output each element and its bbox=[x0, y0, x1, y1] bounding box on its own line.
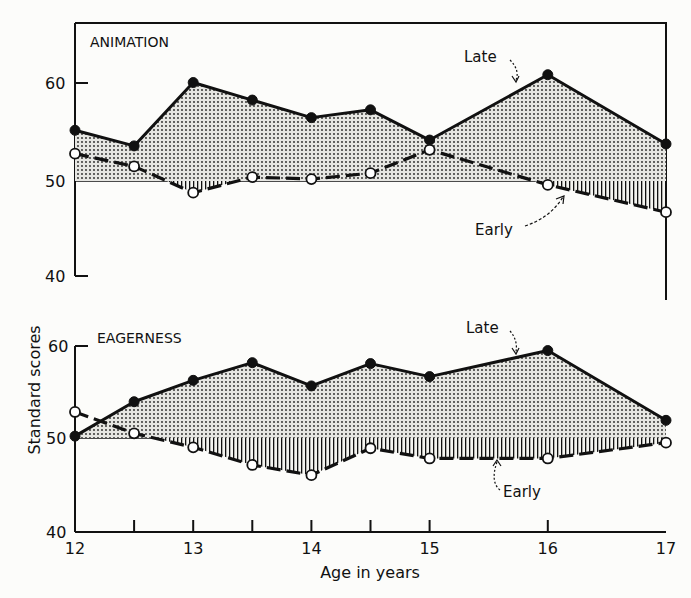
late-point bbox=[366, 105, 376, 115]
panel-title-eagerness: EAGERNESS bbox=[97, 330, 182, 346]
early-point bbox=[543, 180, 553, 190]
early-point bbox=[247, 172, 257, 182]
early-point bbox=[129, 161, 139, 171]
arrow-early-bottom bbox=[494, 462, 500, 490]
annotation-early-top: Early bbox=[475, 221, 513, 239]
bottom-panel: EAGERNESS 60 50 40 Late Early bbox=[46, 319, 671, 542]
early-point bbox=[425, 453, 435, 463]
arrow-late-top bbox=[510, 60, 517, 80]
ytick-label-top-40: 40 bbox=[45, 267, 65, 286]
early-point bbox=[70, 149, 80, 159]
early-point bbox=[306, 470, 316, 480]
late-point bbox=[425, 372, 435, 382]
ytick-label-top-60: 60 bbox=[45, 74, 65, 93]
late-point bbox=[366, 359, 376, 369]
early-point bbox=[247, 460, 257, 470]
xtick-label: 13 bbox=[183, 539, 203, 558]
late-point bbox=[70, 125, 80, 135]
late-point bbox=[306, 381, 316, 391]
annotation-late-bottom: Late bbox=[466, 319, 499, 337]
late-point bbox=[247, 358, 257, 368]
early-point bbox=[188, 188, 198, 198]
late-point bbox=[188, 78, 198, 88]
late-point bbox=[425, 135, 435, 145]
late-point bbox=[306, 113, 316, 123]
early-point bbox=[425, 145, 435, 155]
early-point bbox=[366, 443, 376, 453]
early-point bbox=[306, 174, 316, 184]
early-point bbox=[129, 428, 139, 438]
xtick-label: 15 bbox=[419, 539, 439, 558]
arrowhead-late-top bbox=[512, 76, 519, 82]
ytick-label-bottom-40: 40 bbox=[46, 523, 66, 542]
annotation-early-bottom: Early bbox=[503, 483, 541, 501]
xtick-label: 14 bbox=[301, 539, 321, 558]
arrowhead-early-top bbox=[556, 196, 564, 204]
top-panel: ANIMATION 60 50 40 Late Early bbox=[45, 23, 671, 300]
late-point bbox=[661, 139, 671, 149]
late-point bbox=[247, 95, 257, 105]
chart-figure: ANIMATION 60 50 40 Late Early EAGERNESS … bbox=[0, 0, 691, 598]
late-point bbox=[661, 415, 671, 425]
panel-title-animation: ANIMATION bbox=[90, 34, 169, 50]
early-point bbox=[188, 442, 198, 452]
xtick-label: 16 bbox=[538, 539, 558, 558]
ytick-label-bottom-50: 50 bbox=[46, 429, 66, 448]
annotation-late-top: Late bbox=[464, 48, 497, 66]
late-point bbox=[188, 375, 198, 385]
late-point bbox=[129, 141, 139, 151]
early-point bbox=[543, 453, 553, 463]
late-point bbox=[129, 397, 139, 407]
late-point bbox=[543, 70, 553, 80]
late-point bbox=[543, 346, 553, 356]
y-axis-label: Standard scores bbox=[25, 325, 44, 454]
early-point bbox=[661, 438, 671, 448]
xtick-label: 12 bbox=[65, 539, 85, 558]
ytick-label-top-50: 50 bbox=[45, 172, 65, 191]
arrowhead-late-bottom bbox=[512, 348, 519, 354]
late-point bbox=[70, 431, 80, 441]
xtick-label: 17 bbox=[656, 539, 676, 558]
early-point bbox=[70, 407, 80, 417]
arrow-early-top bbox=[525, 197, 563, 226]
x-axis-label: Age in years bbox=[320, 563, 420, 582]
early-point bbox=[366, 168, 376, 178]
ytick-label-bottom-60: 60 bbox=[48, 337, 68, 356]
early-point bbox=[661, 207, 671, 217]
